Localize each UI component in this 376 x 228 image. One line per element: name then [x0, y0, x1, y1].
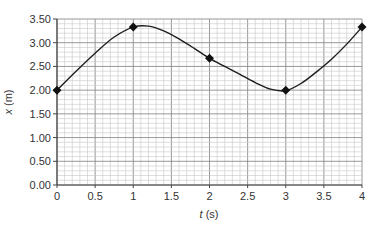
- x-tick-label: 0: [54, 190, 60, 202]
- y-tick-label: 0.50: [30, 155, 51, 167]
- axes: [53, 19, 362, 188]
- x-tick-label: 2.5: [240, 190, 255, 202]
- x-tick-label: 0.5: [87, 190, 102, 202]
- y-tick-label: 1.50: [30, 108, 51, 120]
- grid: [57, 19, 362, 185]
- y-tick-label: 2.00: [30, 84, 51, 96]
- x-axis-tick-labels: 00.511.522.533.54: [54, 190, 365, 202]
- x-tick-label: 4: [359, 190, 365, 202]
- x-tick-label: 2: [206, 190, 212, 202]
- x-tick-label: 1.5: [164, 190, 179, 202]
- y-axis-tick-labels: 0.000.501.001.502.002.503.003.50: [30, 13, 51, 191]
- x-tick-label: 3.5: [316, 190, 331, 202]
- y-tick-label: 2.50: [30, 60, 51, 72]
- y-axis-label: x (m): [2, 89, 14, 115]
- x-tick-label: 3: [283, 190, 289, 202]
- position-time-chart: 0.000.501.001.502.002.503.003.50 00.511.…: [0, 0, 376, 228]
- y-tick-label: 1.00: [30, 132, 51, 144]
- y-tick-label: 0.00: [30, 179, 51, 191]
- y-tick-label: 3.00: [30, 37, 51, 49]
- diamond-marker-icon: [281, 86, 290, 95]
- x-axis-label: t (s): [200, 208, 219, 220]
- x-tick-label: 1: [130, 190, 136, 202]
- y-tick-label: 3.50: [30, 13, 51, 25]
